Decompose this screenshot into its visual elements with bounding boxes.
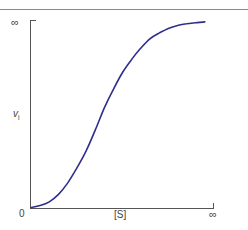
- y-axis-max-label: ∞: [11, 17, 19, 28]
- x-axis-label: [S]: [114, 210, 126, 220]
- y-axis-label: vi: [13, 109, 20, 121]
- origin-label: 0: [19, 209, 25, 219]
- plot-area: [0, 0, 248, 230]
- y-axis-label-subscript: i: [18, 114, 20, 121]
- sigmoid-curve: [31, 22, 205, 208]
- x-axis-max-label: ∞: [209, 209, 217, 220]
